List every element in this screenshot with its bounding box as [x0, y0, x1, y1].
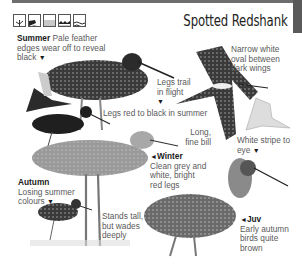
pointer-down-icon: ▼ [253, 147, 260, 154]
label-juv-text: Early autumn birds quite brown [240, 224, 289, 253]
label-stands-tall: Stands tall, but wades deeply [102, 212, 144, 241]
label-juv-heading: Juv [247, 214, 261, 224]
ground [30, 240, 130, 246]
label-long-bill: Long, fine bill [177, 128, 211, 147]
label-autumn-heading: Autumn [18, 177, 49, 187]
label-juv: ◄Juv Early autumn birds quite brown [240, 215, 290, 253]
label-legs-red: Legs red to black in summer [103, 109, 233, 119]
label-legs-trail-text: Legs trail in flight [157, 77, 191, 97]
label-summer-heading: Summer [17, 33, 50, 43]
label-white-stripe: White stripe to eye ▼ [237, 136, 293, 155]
label-white-stripe-text: White stripe to eye [237, 135, 290, 155]
pointer-down-icon: ▼ [157, 98, 164, 105]
label-winter-heading: Winter [157, 151, 183, 161]
label-summer: Summer Pale feather edges wear off to re… [17, 34, 109, 63]
black-bird [32, 106, 110, 146]
pointer-down-icon: ▼ [47, 198, 54, 205]
pointer-down-icon: ▼ [39, 54, 46, 61]
label-narrow-white: Narrow white oval between dark wings [231, 45, 286, 74]
label-legs-trail: Legs trail in flight ▼ [157, 78, 197, 107]
label-legs-red-text: Legs red to black in summer [103, 108, 207, 118]
pointer-left-icon: ◄ [150, 153, 157, 160]
label-winter: ◄Winter Clean grey and white, bright red… [150, 152, 208, 190]
label-winter-text: Clean grey and white, bright red legs [150, 161, 206, 190]
label-autumn: Autumn Losing summer colours ▼ [18, 178, 76, 207]
pointer-left-icon: ◄ [240, 216, 247, 223]
